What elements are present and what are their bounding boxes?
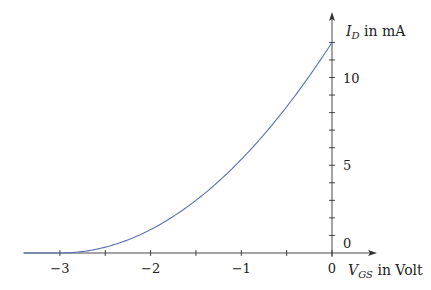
y-axis-label: ID in mA	[345, 23, 406, 41]
y-tick-label: 10	[343, 71, 360, 86]
transfer-characteristic-chart: −3−2−100510ID in mAVGS in Volt	[0, 0, 431, 290]
chart-container: −3−2−100510ID in mAVGS in Volt	[0, 0, 431, 290]
x-axis-label: VGS in Volt	[348, 262, 423, 280]
x-tick-label: −2	[141, 261, 160, 276]
x-tick-label: 0	[328, 261, 336, 276]
id-curve-line	[24, 42, 332, 253]
y-tick-label: 0	[343, 236, 351, 251]
x-tick-label: −3	[50, 261, 69, 276]
x-tick-label: −1	[232, 261, 251, 276]
y-tick-label: 5	[343, 158, 351, 173]
